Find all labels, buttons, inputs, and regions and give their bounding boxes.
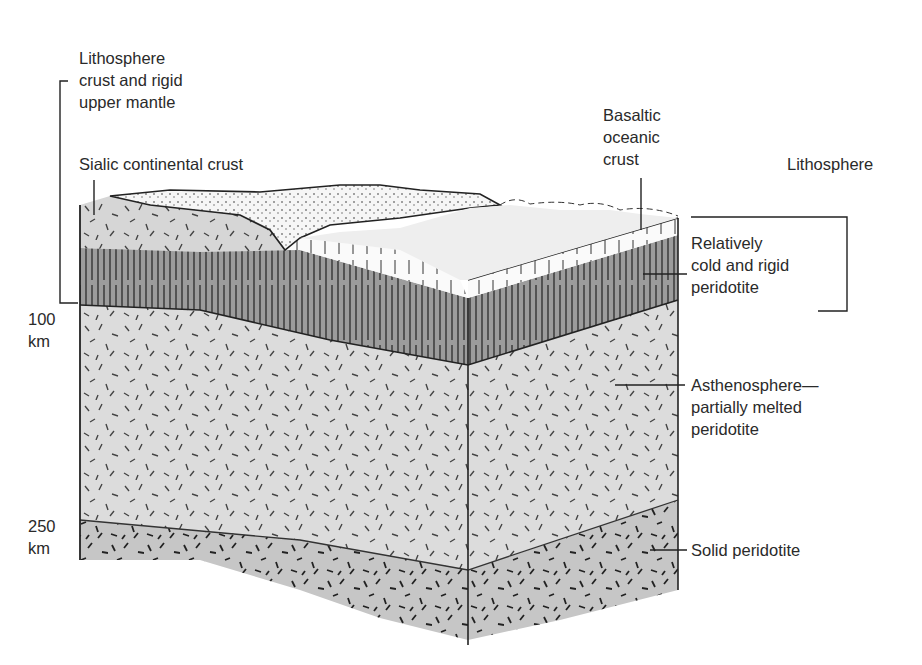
label-line: cold and rigid	[691, 254, 789, 276]
label-lithosphere-right: Lithosphere	[787, 153, 873, 175]
label-line: oceanic	[603, 126, 661, 148]
label-line: crust and rigid	[79, 69, 183, 91]
label-line: 100	[28, 308, 56, 330]
label-basaltic-crust: Basaltic oceanic crust	[603, 104, 661, 170]
label-line: peridotite	[691, 418, 819, 440]
label-line: partially melted	[691, 396, 819, 418]
label-line: Relatively	[691, 232, 789, 254]
label-depth-100: 100 km	[28, 308, 56, 352]
label-line: Asthenosphere—	[691, 374, 819, 396]
label-line: upper mantle	[79, 91, 183, 113]
label-line: crust	[603, 148, 661, 170]
label-line: peridotite	[691, 276, 789, 298]
label-sialic-crust: Sialic continental crust	[79, 153, 243, 175]
label-line: Basaltic	[603, 104, 661, 126]
label-rigid-peridotite: Relatively cold and rigid peridotite	[691, 232, 789, 298]
label-line: Lithosphere	[79, 47, 183, 69]
label-lithosphere-left: Lithosphere crust and rigid upper mantle	[79, 47, 183, 113]
label-line: km	[28, 537, 56, 559]
label-line: km	[28, 330, 56, 352]
label-depth-250: 250 km	[28, 515, 56, 559]
label-line: 250	[28, 515, 56, 537]
label-asthenosphere: Asthenosphere— partially melted peridoti…	[691, 374, 819, 440]
label-solid-peridotite: Solid peridotite	[691, 539, 800, 561]
